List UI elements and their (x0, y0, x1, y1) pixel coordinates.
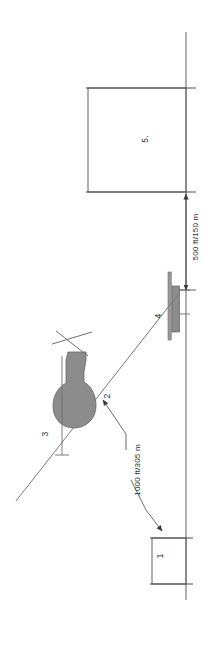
callout-label-1: 1 (155, 554, 165, 559)
dimension-label-1000ft: 1000 ft/305 m (133, 444, 142, 496)
callout-label-3: 3 (40, 432, 50, 437)
diagram-canvas: 1 2 3 4 5. 1000 ft/305 m 500 ft/150 m (0, 0, 218, 662)
dimension-label-500ft: 500 ft/150 m (191, 214, 200, 261)
callout-label-4: 4 (153, 314, 163, 319)
tower-structure-3 (52, 331, 96, 455)
callout-label-5: 5. (140, 135, 150, 143)
antenna-mast-4 (168, 272, 190, 340)
diagram-drawing (0, 0, 218, 662)
callout-label-2: 2 (102, 394, 112, 399)
line-of-sight-2 (16, 292, 180, 501)
